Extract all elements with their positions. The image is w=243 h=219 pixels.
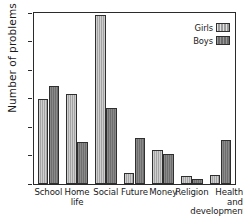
- bar-group: [34, 13, 63, 184]
- x-axis-labels: SchoolHome lifeSocialFutureMoneyReligion…: [34, 188, 243, 219]
- bar-boys: [221, 140, 232, 184]
- girls-swatch: [216, 23, 230, 33]
- bar-boys: [163, 154, 174, 184]
- bar-group: [63, 13, 92, 184]
- legend-item-label: Girls: [195, 23, 213, 33]
- bar-group: [149, 13, 178, 184]
- bar-boys: [192, 179, 203, 184]
- y-axis-tick-mark: [28, 41, 32, 42]
- bar-boys: [135, 138, 146, 184]
- bar-girls: [38, 99, 49, 184]
- bar-girls: [66, 94, 77, 184]
- bar-girls: [210, 175, 221, 184]
- y-axis-tick-mark: [28, 127, 32, 128]
- bar-girls: [181, 176, 192, 184]
- legend: GirlsBoys: [178, 22, 230, 48]
- bar-girls: [152, 150, 163, 184]
- y-axis-tick-mark: [28, 13, 32, 14]
- y-axis-title: Number of problems: [6, 0, 18, 133]
- bar-girls: [124, 173, 135, 184]
- bar-girls: [95, 15, 106, 184]
- bar-chart: Number of problems 050100150200250300 Sc…: [0, 0, 243, 219]
- boys-swatch: [216, 36, 230, 46]
- legend-item: Girls: [178, 22, 230, 33]
- y-axis-tick-mark: [28, 98, 32, 99]
- y-axis-tick-mark: [28, 184, 32, 185]
- bar-boys: [77, 142, 88, 184]
- y-axis-tick-mark: [28, 155, 32, 156]
- bar-group: [91, 13, 120, 184]
- x-axis-label: Health and development: [190, 188, 243, 217]
- y-axis-tick-mark: [28, 70, 32, 71]
- bar-group: [120, 13, 149, 184]
- legend-item-label: Boys: [193, 36, 213, 46]
- legend-item: Boys: [178, 35, 230, 46]
- bar-boys: [106, 108, 117, 184]
- bar-boys: [49, 86, 60, 184]
